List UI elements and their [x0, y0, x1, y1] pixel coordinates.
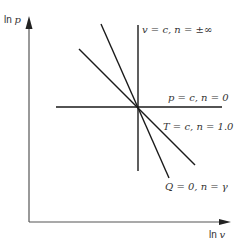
x-axis-label: ln v [209, 230, 225, 240]
isobaric-label-condition: p = c, [168, 92, 198, 103]
x-axis-label-var: v [220, 229, 226, 240]
polytropic-process-diagram: ln p ln v v = c, n = ±∞ p = c, n = 0 T =… [0, 0, 236, 243]
isochoric-label-exponent: n = ±∞ [174, 24, 212, 35]
y-axis-label: ln p [4, 15, 21, 25]
isobaric-label-exponent: n = 0 [201, 92, 229, 103]
isobaric-label: p = c, n = 0 [168, 93, 229, 103]
y-axis-label-var: p [15, 14, 21, 25]
adiabatic-label-condition: Q = 0, [165, 181, 197, 192]
y-axis-label-prefix: ln [4, 14, 12, 25]
x-axis-arrow-icon [219, 219, 231, 225]
adiabatic-line [101, 24, 169, 178]
isothermal-label-exponent: n = 1.0 [196, 121, 233, 132]
isothermal-label-condition: T = c, [163, 121, 193, 132]
isothermal-label: T = c, n = 1.0 [163, 122, 233, 132]
y-axis-arrow-icon [26, 16, 33, 29]
adiabatic-label-exponent: n = γ [201, 181, 228, 192]
x-axis-label-prefix: ln [209, 229, 217, 240]
adiabatic-label: Q = 0, n = γ [165, 182, 228, 192]
isochoric-label-condition: v = c, [142, 24, 171, 35]
isochoric-label: v = c, n = ±∞ [142, 25, 212, 35]
